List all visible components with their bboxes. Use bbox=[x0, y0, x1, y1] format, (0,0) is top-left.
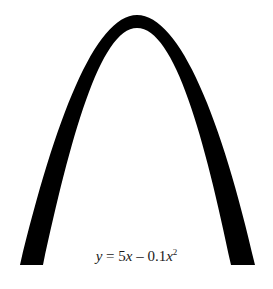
equation-exponent: 2 bbox=[173, 247, 178, 257]
arch-shape bbox=[20, 15, 255, 265]
equation-label: y = 5x – 0.1x2 bbox=[0, 248, 273, 265]
equation-x2: x bbox=[166, 248, 173, 264]
equation-minus: – 0.1 bbox=[132, 248, 166, 264]
equation-equals: = 5 bbox=[102, 248, 125, 264]
parabolic-arch bbox=[0, 0, 273, 289]
